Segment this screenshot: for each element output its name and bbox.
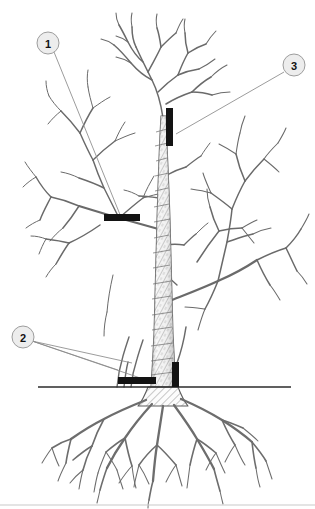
callout-badge-1[interactable]: 1 [37,32,59,54]
tree-pruning-diagram: 1 2 3 [0,0,315,509]
diagram-canvas: 1 2 3 [0,0,315,509]
callout-badge-2[interactable]: 2 [12,326,34,348]
cut-marker-horizontal-scaffold [104,214,140,221]
callout-circle-3 [283,54,305,76]
callout-badge-3[interactable]: 3 [283,54,305,76]
cut-marker-horizontal-ground [118,377,156,384]
cut-marker-vertical-trunk [166,108,173,146]
callout-circle-1 [37,32,59,54]
callout-circle-2 [12,326,34,348]
cut-marker-vertical-rootflare [172,362,179,387]
